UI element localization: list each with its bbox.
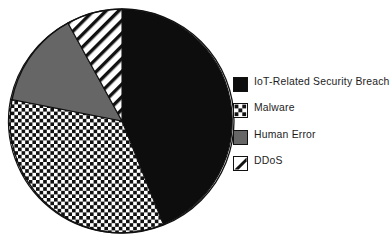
solid-black-swatch-icon [233, 77, 248, 92]
pie-chart-figure: IoT-Related Security Breach Malware Huma… [0, 0, 390, 241]
legend-item-iot-related-security-breach[interactable]: IoT-Related Security Breach [233, 70, 390, 96]
legend-label: DDoS [254, 154, 283, 167]
diagonal-hatch-swatch-icon [233, 156, 248, 171]
checkerboard-swatch-icon [233, 103, 248, 118]
legend-label: Malware [254, 101, 295, 114]
pie-chart-plot-area [0, 0, 246, 241]
legend-item-ddos[interactable]: DDoS [233, 149, 390, 175]
legend-label: Human Error [254, 128, 316, 141]
legend-item-malware[interactable]: Malware [233, 96, 390, 122]
legend-label: IoT-Related Security Breach [254, 75, 390, 88]
legend-item-human-error[interactable]: Human Error [233, 123, 390, 149]
pie-chart-svg [0, 0, 246, 241]
solid-gray-swatch-icon [233, 130, 248, 145]
legend: IoT-Related Security Breach Malware Huma… [233, 70, 390, 175]
